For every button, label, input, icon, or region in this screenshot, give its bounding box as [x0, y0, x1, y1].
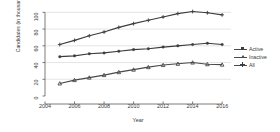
- legend-label-all: All: [249, 62, 255, 68]
- legend-item-all[interactable]: All: [234, 61, 267, 69]
- legend-marker-triangle-icon: [234, 53, 247, 61]
- legend-label-active: Active: [249, 46, 263, 52]
- legend-item-inactive[interactable]: Inactive: [234, 53, 267, 61]
- chart-figure: Candidates (in thousands) 020406080100 2…: [0, 0, 280, 132]
- legend-marker-plus-icon: [234, 61, 247, 69]
- legend-marker-circle-icon: [234, 45, 247, 53]
- chart-legend: Active Inactive All: [234, 45, 267, 69]
- legend-item-active[interactable]: Active: [234, 45, 267, 53]
- legend-label-inactive: Inactive: [249, 54, 267, 60]
